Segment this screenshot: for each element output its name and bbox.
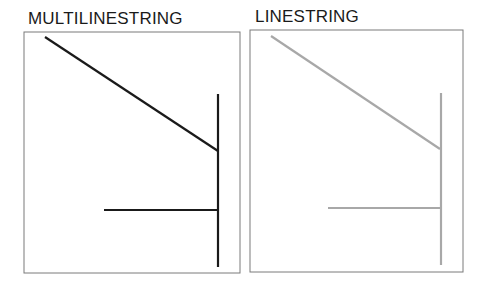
linestring-panel (250, 30, 463, 272)
panel-frame (250, 30, 463, 272)
diagram-canvas (0, 0, 482, 281)
panel-frame (24, 32, 240, 273)
line-segment (45, 37, 218, 151)
multilinestring-panel (24, 32, 240, 273)
line-segment (271, 36, 440, 149)
